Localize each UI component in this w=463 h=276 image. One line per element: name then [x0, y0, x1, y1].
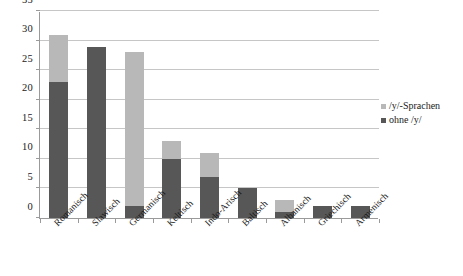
bar-segment-y-sprachen [200, 153, 219, 177]
gridline [40, 10, 379, 11]
y-axis-tick [36, 10, 40, 11]
y-axis-tick-label: 20 [22, 83, 33, 94]
gridline [40, 40, 379, 41]
legend-swatch-icon [381, 118, 386, 123]
legend-item: /y/-Sprachen [381, 99, 463, 113]
legend-label: /y/-Sprachen [389, 101, 440, 111]
bar-segment-y-sprachen [49, 35, 68, 82]
y-axis-tick-label: 5 [28, 172, 33, 183]
bar-segment-ohne-y [87, 47, 106, 219]
bar-chart: 05101520253035 RomanischSlawischGermanis… [0, 0, 463, 276]
plot-area [39, 12, 378, 219]
y-axis-tick [36, 187, 40, 188]
y-axis-tick-label: 25 [22, 54, 33, 65]
chart-legend: /y/-Sprachenohne /y/ [381, 99, 463, 127]
y-axis-tick [36, 217, 40, 218]
y-axis: 05101520253035 [0, 0, 33, 219]
x-axis-labels: RomanischSlawischGermanischKeltischIndo-… [39, 221, 439, 276]
legend-label: ohne /y/ [389, 115, 422, 125]
y-axis-tick [36, 158, 40, 159]
legend-swatch-icon [381, 104, 386, 109]
bar-stack [125, 52, 144, 218]
bar-stack [49, 35, 68, 218]
y-axis-tick-label: 35 [22, 0, 33, 5]
bar-stack [87, 47, 106, 219]
y-axis-tick [36, 128, 40, 129]
y-axis-tick-label: 30 [22, 24, 33, 35]
y-axis-tick [36, 99, 40, 100]
bar-segment-y-sprachen [162, 141, 181, 159]
y-axis-tick-label: 0 [28, 202, 33, 213]
legend-item: ohne /y/ [381, 113, 463, 127]
y-axis-tick [36, 40, 40, 41]
y-axis-tick-label: 10 [22, 142, 33, 153]
y-axis-tick-label: 15 [22, 113, 33, 124]
bar-segment-y-sprachen [125, 52, 144, 206]
bar-segment-ohne-y [49, 82, 68, 218]
y-axis-tick [36, 69, 40, 70]
